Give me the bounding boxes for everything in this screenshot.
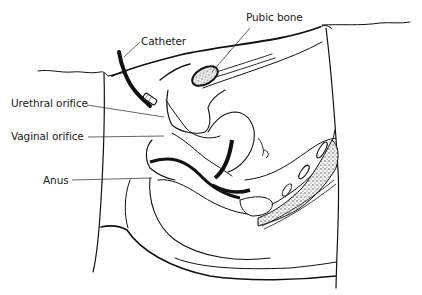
pubic-bone <box>189 62 221 90</box>
leader-urethral-orifice <box>87 105 164 117</box>
sacrum-bone <box>258 140 338 226</box>
leader-vaginal-orifice <box>88 136 164 137</box>
diagram-canvas: Catheter Pubic bone Urethral orifice Vag… <box>0 0 422 295</box>
label-urethral-orifice: Urethral orifice <box>11 98 88 109</box>
leader-catheter <box>124 42 140 57</box>
label-catheter: Catheter <box>141 36 186 47</box>
uterine-mass <box>240 197 272 216</box>
urethra-outline <box>166 100 220 138</box>
right-skin-edge <box>320 22 410 29</box>
pelvic-wall <box>203 42 322 88</box>
inner-fold <box>125 180 130 228</box>
rectum-outer <box>150 178 270 259</box>
left-thigh-line <box>93 73 104 272</box>
label-anus: Anus <box>43 175 69 186</box>
label-vaginal-orifice: Vaginal orifice <box>11 131 84 142</box>
pelvis-illustration <box>0 0 422 295</box>
vaginal-dark-fold <box>215 140 232 178</box>
bladder-outline <box>167 90 225 133</box>
buttock-lower <box>101 226 336 280</box>
leader-pubic-bone <box>212 28 250 72</box>
leader-anus <box>72 178 152 180</box>
mons-contour <box>160 64 190 80</box>
ovary-squiggle <box>258 138 268 158</box>
label-pubic-bone: Pubic bone <box>246 12 303 23</box>
